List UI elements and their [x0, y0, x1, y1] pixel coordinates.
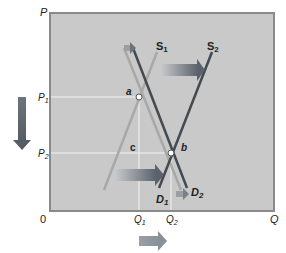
- point-a-label: a: [126, 86, 132, 97]
- supply-demand-diagram: P Q 0 P1 P2 Q1 Q2 S1 S2 D1 D2 a b c: [0, 0, 286, 253]
- q1-label: Q1: [134, 214, 146, 226]
- price-decrease-arrow: [13, 97, 31, 150]
- point-b: [168, 150, 174, 156]
- origin-label: 0: [40, 213, 46, 225]
- point-b-label: b: [181, 142, 187, 153]
- p1-label: P1: [38, 92, 49, 104]
- q2-label: Q2: [166, 214, 178, 226]
- x-axis-label: Q: [270, 213, 279, 225]
- quantity-increase-arrow: [139, 231, 167, 251]
- point-c-label: c: [130, 142, 136, 153]
- point-a: [136, 94, 142, 100]
- y-axis-label: P: [40, 6, 48, 18]
- p2-label: P2: [38, 148, 49, 160]
